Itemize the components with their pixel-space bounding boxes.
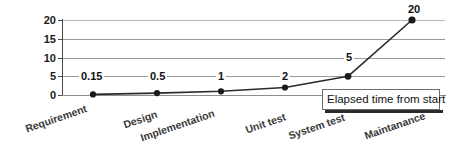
series-tooltip: Elapsed time from start — [322, 89, 440, 110]
series-polyline — [93, 20, 412, 94]
data-point-marker — [282, 84, 288, 90]
data-value-label: 0.15 — [79, 71, 104, 82]
data-point-marker — [218, 88, 224, 94]
data-point-marker — [345, 73, 352, 80]
data-point-marker — [408, 16, 415, 23]
data-value-label: 5 — [344, 52, 354, 63]
data-value-label: 2 — [280, 71, 290, 82]
chart-container: 20 15 10 5 0 — [0, 0, 459, 156]
tooltip-label: Elapsed time from start — [327, 93, 445, 107]
data-value-label: 1 — [216, 71, 226, 82]
data-value-label: 0.5 — [148, 71, 167, 82]
tooltip-shadow — [325, 110, 443, 113]
data-point-marker — [154, 90, 160, 96]
data-value-label: 20 — [406, 4, 422, 15]
data-point-marker — [90, 91, 96, 97]
